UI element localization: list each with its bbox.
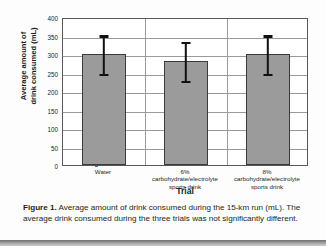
y-axis-tick-mark xyxy=(95,166,98,167)
y-axis-tick-label: 300 xyxy=(36,52,58,59)
plot-area xyxy=(62,18,308,166)
error-bar-cap-upper xyxy=(100,35,109,37)
figure-container: Average amount of drink consumed (mL) 05… xyxy=(0,0,326,246)
x-axis-category-label-line: carbohydrate/electrolyte xyxy=(227,175,307,182)
error-bar-cap-upper xyxy=(264,35,273,37)
page-edge-shadow xyxy=(0,240,326,246)
y-axis-tick-label: 100 xyxy=(36,126,58,133)
bar-chart: Average amount of drink consumed (mL) 05… xyxy=(0,0,326,196)
x-axis-category-label-line: 8% xyxy=(227,168,307,175)
category-divider xyxy=(145,19,146,165)
y-axis-tick-label: 150 xyxy=(36,107,58,114)
y-axis-title-line-1: Average amount of xyxy=(19,32,29,101)
y-axis-tick-labels: 050100150200250300350400 xyxy=(36,14,58,170)
error-bar-cap-lower xyxy=(100,74,109,76)
error-bar-line xyxy=(267,36,269,75)
y-axis-tick-label: 250 xyxy=(36,70,58,77)
x-axis-title: Trial xyxy=(62,186,308,196)
error-bar-cap-lower xyxy=(182,81,191,83)
y-axis-tick-label: 200 xyxy=(36,89,58,96)
category-divider xyxy=(227,19,228,165)
figure-caption: Figure 1. Average amount of drink consum… xyxy=(23,202,303,225)
x-axis-category-label-line: carbohydrate/electrolyte xyxy=(145,175,225,182)
error-bar-line xyxy=(103,36,105,74)
x-axis-category-label-line: 6% xyxy=(145,168,225,175)
figure-caption-text: Average amount of drink consumed during … xyxy=(23,203,300,223)
x-axis-category-label-line: Water xyxy=(63,168,143,175)
y-axis-tick-label: 0 xyxy=(36,163,58,170)
y-axis-tick-label: 50 xyxy=(36,144,58,151)
figure-caption-label: Figure 1. xyxy=(23,203,57,212)
error-bar-cap-upper xyxy=(182,42,191,44)
gridline xyxy=(63,38,307,39)
y-axis-tick-label: 400 xyxy=(36,15,58,22)
error-bar-cap-lower xyxy=(264,74,273,76)
error-bar-line xyxy=(185,43,187,82)
y-axis-tick-label: 350 xyxy=(36,33,58,40)
